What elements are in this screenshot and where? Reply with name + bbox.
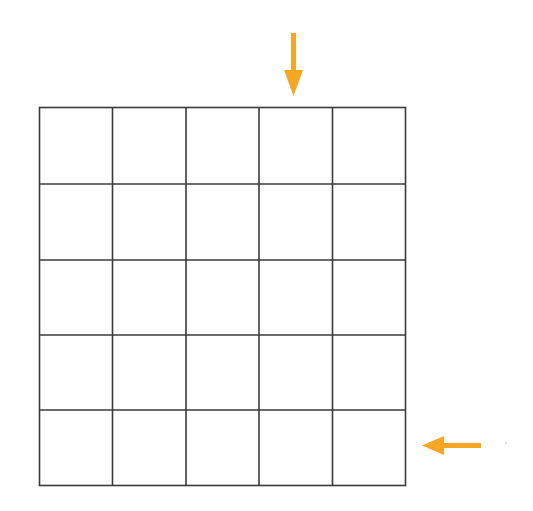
down-arrow-icon [284,33,303,96]
grid-diagram [0,0,533,511]
grid [40,108,406,486]
left-arrow-icon [422,436,481,455]
stray-dot [505,442,507,444]
grid-border [40,108,406,486]
